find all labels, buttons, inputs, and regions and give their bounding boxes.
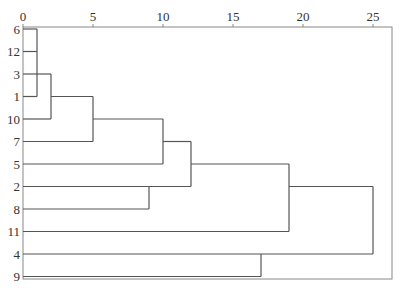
x-tick-label: 20 bbox=[297, 9, 310, 24]
leaf-label: 9 bbox=[14, 269, 21, 284]
dendrogram-chart: 0510152025 612311075281149 bbox=[0, 0, 401, 290]
leaf-label: 1 bbox=[14, 89, 21, 104]
x-tick-label: 5 bbox=[90, 9, 97, 24]
x-tick-label: 25 bbox=[367, 9, 380, 24]
leaf-label: 6 bbox=[14, 22, 21, 37]
leaf-label: 5 bbox=[14, 157, 21, 172]
leaf-label: 8 bbox=[14, 202, 21, 217]
leaf-label: 10 bbox=[7, 112, 20, 127]
leaf-label: 11 bbox=[7, 224, 20, 239]
x-axis: 0510152025 bbox=[20, 9, 380, 27]
leaf-label: 2 bbox=[14, 179, 21, 194]
leaf-label: 4 bbox=[14, 247, 21, 262]
plot-frame bbox=[23, 27, 392, 279]
leaf-labels: 612311075281149 bbox=[7, 22, 21, 285]
x-tick-label: 15 bbox=[227, 9, 240, 24]
leaf-label: 12 bbox=[7, 44, 20, 59]
x-tick-label: 10 bbox=[157, 9, 170, 24]
dendrogram-links bbox=[23, 29, 373, 277]
leaf-label: 7 bbox=[14, 134, 21, 149]
x-tick-label: 0 bbox=[20, 9, 27, 24]
leaf-label: 3 bbox=[14, 67, 21, 82]
